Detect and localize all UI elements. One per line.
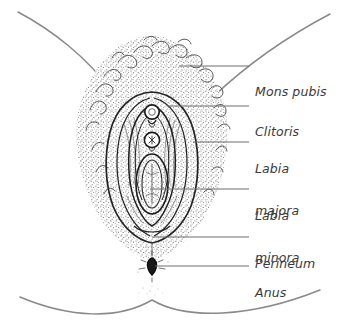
label-anus: Anus <box>255 258 286 328</box>
anatomy-diagram-page: Mons pubis Clitoris Labia majora Labia m… <box>0 0 360 335</box>
label-labia-majora-line-0: Labia <box>255 162 299 176</box>
label-anus-line-0: Anus <box>255 286 286 300</box>
label-labia-minora-line-0: Labia <box>255 209 300 223</box>
lower-stipple <box>139 286 163 296</box>
